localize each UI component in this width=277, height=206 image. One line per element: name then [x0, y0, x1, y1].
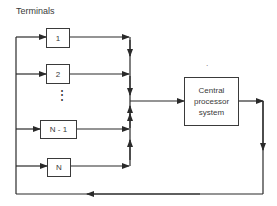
ellipsis-dots: ⋮ [55, 93, 61, 100]
terminal-n-label: N [56, 163, 62, 172]
terminal-n-minus-1-label: N - 1 [50, 125, 67, 134]
processor-line-1: Central [199, 85, 225, 96]
terminal-2-box: 2 [46, 64, 70, 84]
processor-line-2: processor [194, 96, 229, 107]
terminal-n-box: N [47, 158, 71, 177]
terminal-2-label: 2 [56, 70, 60, 79]
terminal-n-minus-1-box: N - 1 [40, 120, 77, 139]
ellipsis-text: ⋮ [55, 87, 69, 103]
terminal-1-box: 1 [46, 28, 70, 48]
central-processor-box: Central processor system [184, 77, 239, 126]
small-mark: · [206, 62, 208, 69]
processor-line-3: system [199, 107, 224, 118]
terminal-1-label: 1 [56, 34, 60, 43]
